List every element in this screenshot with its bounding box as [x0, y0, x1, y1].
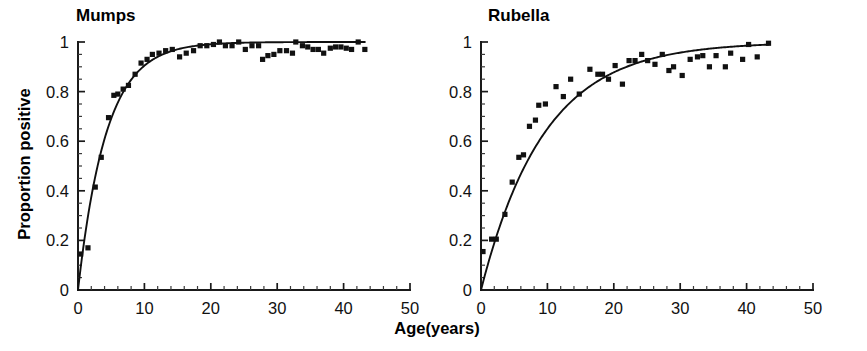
data-point-marker [713, 53, 718, 58]
panel-mumps: Mumps 0102030405000.20.40.60.81 [0, 0, 433, 351]
data-point-marker [290, 51, 295, 56]
data-point-marker [133, 72, 138, 77]
y-tick-label: 0.6 [449, 132, 472, 150]
data-point-marker [93, 184, 98, 189]
data-point-marker [632, 58, 637, 63]
data-point-marker [204, 43, 209, 48]
x-tick-label: 0 [73, 299, 82, 317]
data-point-marker [700, 53, 705, 58]
data-point-marker [310, 47, 315, 52]
data-point-marker [198, 43, 203, 48]
y-tick-label: 0.6 [46, 132, 69, 150]
figure-seroprevalence-by-age: Proportion positive Mumps 0102030405000.… [0, 0, 867, 351]
data-point-marker [300, 43, 305, 48]
data-point-marker [223, 43, 228, 48]
data-point-marker [533, 118, 538, 123]
data-point-marker [766, 41, 771, 46]
data-point-marker [652, 62, 657, 67]
data-point-marker [85, 245, 90, 250]
x-tick-label: 50 [401, 299, 419, 317]
x-tick-label: 10 [135, 299, 153, 317]
data-point-marker [489, 237, 494, 242]
data-point-marker [671, 64, 676, 69]
data-point-marker [680, 73, 685, 78]
data-point-marker [316, 47, 321, 52]
y-tick-label: 0.4 [449, 182, 472, 200]
data-point-marker [613, 63, 618, 68]
data-point-marker [177, 54, 182, 59]
y-tick-label: 1 [60, 33, 69, 51]
data-point-marker [606, 77, 611, 82]
data-point-marker [626, 58, 631, 63]
x-tick-label: 40 [334, 299, 352, 317]
data-point-marker [356, 39, 361, 44]
data-point-marker [740, 57, 745, 62]
data-point-marker [249, 43, 254, 48]
data-point-marker [170, 47, 175, 52]
data-point-marker [126, 83, 131, 88]
y-tick-label: 0.4 [46, 182, 69, 200]
y-tick-label: 0.2 [449, 231, 472, 249]
data-point-marker [362, 47, 367, 52]
data-point-marker [236, 39, 241, 44]
y-tick-label: 0.8 [449, 83, 472, 101]
data-point-marker [746, 42, 751, 47]
data-point-marker [502, 212, 507, 217]
data-point-marker [260, 57, 265, 62]
data-point-marker [494, 237, 499, 242]
data-point-marker [106, 115, 111, 120]
x-tick-label: 20 [605, 299, 623, 317]
data-point-marker [305, 44, 310, 49]
plot-area-rubella: 0102030405000.20.40.60.81 [430, 0, 863, 351]
data-point-marker [243, 47, 248, 52]
data-point-marker [707, 64, 712, 69]
data-point-marker [344, 46, 349, 51]
data-point-marker [293, 39, 298, 44]
data-point-marker [163, 48, 168, 53]
data-point-marker [156, 51, 161, 56]
data-point-marker [577, 91, 582, 96]
data-point-marker [284, 48, 289, 53]
x-axis-label: Age(years) [352, 318, 522, 338]
data-point-marker [211, 42, 216, 47]
data-point-marker [568, 77, 573, 82]
data-point-marker [645, 58, 650, 63]
data-point-marker [271, 52, 276, 57]
data-point-marker [480, 249, 485, 254]
y-tick-label: 0.2 [46, 231, 69, 249]
x-tick-label: 0 [476, 299, 485, 317]
data-point-marker [600, 72, 605, 77]
data-point-marker [265, 53, 270, 58]
axis-spines [78, 42, 410, 290]
data-point-marker [587, 67, 592, 72]
data-point-marker [138, 60, 143, 65]
y-tick-label: 0 [463, 281, 472, 299]
data-point-marker [150, 52, 155, 57]
plot-area-mumps: 0102030405000.20.40.60.81 [0, 0, 433, 351]
axis-spines [481, 42, 813, 290]
data-point-marker [333, 44, 338, 49]
data-point-marker [121, 87, 126, 92]
data-point-marker [521, 152, 526, 157]
data-point-marker [620, 82, 625, 87]
data-point-marker [688, 57, 693, 62]
data-point-marker [321, 51, 326, 56]
data-point-marker [115, 91, 120, 96]
data-point-marker [595, 72, 600, 77]
y-tick-label: 0 [60, 281, 69, 299]
data-point-marker [536, 103, 541, 108]
data-point-marker [277, 48, 282, 53]
data-point-marker [723, 64, 728, 69]
data-point-marker [144, 57, 149, 62]
x-tick-label: 10 [538, 299, 556, 317]
x-tick-label: 40 [737, 299, 755, 317]
data-point-marker [666, 68, 671, 73]
data-point-marker [695, 54, 700, 59]
data-point-marker [639, 52, 644, 57]
data-point-marker [191, 48, 196, 53]
data-point-marker [543, 101, 548, 106]
fitted-curve [78, 42, 365, 290]
data-point-marker [229, 43, 234, 48]
data-point-marker [328, 46, 333, 51]
x-tick-label: 30 [671, 299, 689, 317]
